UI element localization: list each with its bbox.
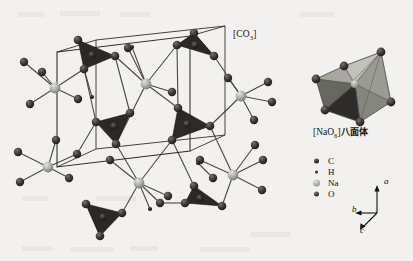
- atom-o: [52, 136, 60, 144]
- sphere-c-icon: [314, 158, 319, 163]
- atom-o: [74, 36, 83, 45]
- atom-o: [14, 148, 22, 156]
- axis-label-c: c: [360, 225, 364, 235]
- atom-o: [173, 41, 182, 50]
- atom-o: [268, 98, 276, 106]
- atom-na: [236, 91, 247, 102]
- legend-label-c: C: [328, 156, 334, 165]
- atom-o: [168, 136, 177, 145]
- atom-c: [184, 121, 191, 128]
- atom-h: [90, 95, 94, 99]
- atom-o: [224, 74, 232, 82]
- atom-o: [111, 52, 120, 61]
- atom-o: [250, 116, 258, 124]
- atom-o: [92, 118, 101, 127]
- atom-na: [43, 162, 54, 173]
- atom-o: [174, 104, 183, 113]
- atom-o: [65, 174, 73, 182]
- atom-o: [251, 141, 259, 149]
- octa-vertex-o-atom: [312, 75, 321, 84]
- atom-o: [156, 199, 164, 207]
- atom-na: [141, 79, 152, 90]
- atom-o: [259, 156, 267, 164]
- nao6-octahedron-label: [NaO6]八面体: [313, 128, 368, 140]
- atom-o: [209, 174, 217, 182]
- octa-vertex-o-atom: [340, 62, 349, 71]
- sphere-h-icon: [315, 170, 318, 173]
- axis-label-b: b: [352, 204, 357, 214]
- atom-o: [168, 88, 176, 96]
- atom-na: [134, 178, 145, 189]
- legend-label-na: Na: [328, 178, 339, 187]
- atom-h: [196, 161, 200, 165]
- octa-vertex-o-atom: [321, 106, 330, 115]
- atom-o: [38, 68, 46, 76]
- atom-o: [74, 95, 82, 103]
- atom-c: [192, 42, 199, 49]
- atom-h: [130, 45, 134, 49]
- atom-c: [100, 214, 107, 221]
- atom-na: [50, 83, 61, 94]
- nao6-label-cjk: 八面体: [341, 127, 368, 137]
- co3-label: [CO3]: [233, 30, 256, 42]
- sphere-o-icon: [314, 191, 319, 196]
- atom-o: [181, 199, 190, 208]
- legend-item-c: C: [314, 155, 374, 166]
- atom-c: [197, 195, 204, 202]
- atom-o: [218, 202, 227, 211]
- octa-vertex-o-atom: [377, 48, 386, 57]
- legend-label-o: O: [328, 189, 335, 198]
- atom-o: [126, 109, 135, 118]
- atom-h: [148, 207, 152, 211]
- sphere-na-icon: [313, 179, 320, 186]
- atom-o: [210, 52, 219, 61]
- atom-o: [20, 58, 28, 66]
- atom-o: [206, 122, 215, 131]
- axis-triad-labels: a b c: [352, 176, 408, 248]
- atom-o: [118, 209, 127, 218]
- atom-o: [96, 232, 105, 241]
- atom-o: [190, 182, 199, 191]
- axis-label-a: a: [384, 176, 389, 186]
- atom-o: [190, 29, 199, 38]
- atom-c: [111, 123, 118, 130]
- octa-vertex-o-atom: [387, 98, 396, 107]
- octa-center-na-atom: [351, 80, 359, 88]
- atom-o: [264, 78, 272, 86]
- atom-o: [112, 140, 121, 149]
- atom-o: [106, 156, 114, 164]
- atom-c: [89, 52, 96, 59]
- atom-na: [228, 170, 239, 181]
- atom-o: [164, 192, 172, 200]
- atom-o: [73, 150, 81, 158]
- legend-label-h: H: [328, 167, 335, 176]
- atom-o: [82, 200, 91, 209]
- atom-o: [16, 178, 24, 186]
- atom-o: [258, 186, 266, 194]
- atom-o: [80, 65, 89, 74]
- octa-vertex-o-atom: [356, 118, 365, 127]
- atom-o: [26, 100, 34, 108]
